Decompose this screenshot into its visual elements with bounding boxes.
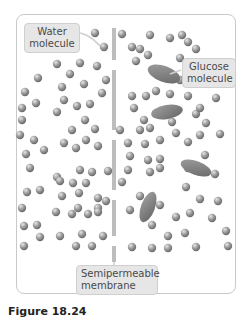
water-molecule — [60, 96, 68, 104]
water-molecule — [81, 116, 89, 124]
water-molecule — [18, 116, 26, 124]
water-molecule — [118, 30, 126, 38]
water-molecule — [124, 139, 132, 147]
water-molecule — [118, 178, 126, 186]
water-molecule — [141, 140, 149, 148]
water-molecule — [166, 90, 174, 98]
semipermeable-membrane-label: Semipermeable membrane — [76, 265, 158, 295]
water-molecule — [201, 151, 209, 159]
water-molecule — [26, 164, 34, 172]
water-molecule — [58, 83, 66, 91]
water-molecule — [178, 31, 186, 39]
water-molecule — [164, 232, 172, 240]
glucose-molecule — [179, 156, 214, 180]
water-molecule — [132, 57, 140, 65]
membrane-segment — [112, 70, 116, 130]
water-molecule — [99, 232, 107, 240]
water-molecule — [156, 136, 164, 144]
water-molecule — [148, 244, 156, 252]
water-label-line2: molecule — [29, 38, 75, 50]
water-molecule — [166, 34, 174, 42]
water-molecule — [146, 31, 154, 39]
water-molecule — [196, 131, 204, 139]
water-molecule — [93, 62, 101, 70]
water-molecule — [58, 192, 66, 200]
water-molecule — [181, 229, 189, 237]
water-molecule — [76, 59, 84, 67]
water-molecule — [128, 243, 136, 251]
water-molecule — [32, 99, 40, 107]
water-molecule — [36, 186, 44, 194]
water-molecule — [20, 242, 28, 250]
water-molecule — [60, 139, 68, 147]
water-molecule — [53, 108, 61, 116]
water-molecule — [156, 164, 164, 172]
water-molecule — [88, 168, 96, 176]
water-label-line1: Water — [29, 26, 75, 38]
water-molecule — [53, 60, 61, 68]
water-molecule — [76, 166, 84, 174]
water-molecule — [102, 197, 110, 205]
water-molecule — [224, 242, 232, 250]
water-molecule — [36, 233, 44, 241]
water-molecule — [216, 130, 224, 138]
membrane-label-line1: Semipermeable — [81, 268, 153, 280]
water-molecule — [82, 179, 90, 187]
water-molecule — [211, 170, 219, 178]
semipermeable-membrane — [112, 28, 116, 262]
water-molecule — [69, 179, 77, 187]
water-molecule — [56, 232, 64, 240]
water-molecule — [68, 126, 76, 134]
water-molecules-left — [16, 29, 112, 250]
water-molecule — [126, 206, 134, 214]
water-molecule — [98, 89, 106, 97]
water-molecule — [66, 70, 74, 78]
water-molecule — [68, 210, 76, 218]
water-molecule — [94, 208, 102, 216]
water-molecule — [146, 124, 154, 132]
water-molecule — [212, 94, 220, 102]
water-molecule — [186, 209, 194, 217]
water-molecule — [184, 38, 192, 46]
glucose-label-line2: molecule — [187, 73, 231, 85]
water-molecule — [102, 76, 110, 84]
water-molecule — [124, 166, 132, 174]
water-molecule — [208, 214, 216, 222]
water-molecule — [94, 142, 102, 150]
water-molecule — [148, 221, 156, 229]
water-molecule — [91, 125, 99, 133]
water-molecule — [184, 92, 192, 100]
membrane-segment — [112, 200, 116, 236]
water-molecule — [126, 152, 134, 160]
water-molecule — [164, 244, 172, 252]
water-molecule — [214, 197, 222, 205]
water-molecule — [52, 208, 60, 216]
water-molecule — [40, 146, 48, 154]
water-molecule — [128, 92, 136, 100]
water-molecule — [142, 92, 150, 100]
water-molecule — [172, 129, 180, 137]
water-molecule — [56, 177, 64, 185]
water-molecule — [22, 150, 30, 158]
water-molecule — [144, 51, 152, 59]
water-molecule — [18, 104, 26, 112]
water-molecule — [192, 45, 200, 53]
membrane-segment — [112, 246, 116, 262]
membrane-label-line2: membrane — [81, 280, 153, 292]
water-molecule — [75, 189, 83, 197]
water-molecule — [146, 168, 154, 176]
water-molecule — [23, 188, 31, 196]
water-molecule — [33, 221, 41, 229]
water-molecule — [100, 43, 108, 51]
water-molecule — [88, 242, 96, 250]
membrane-segment — [112, 140, 116, 190]
water-molecule — [144, 156, 152, 164]
water-molecule — [72, 144, 80, 152]
figure-caption: Figure 18.24 — [8, 305, 87, 318]
water-molecule — [82, 136, 90, 144]
glucose-molecule — [150, 102, 184, 121]
water-molecule — [86, 100, 94, 108]
water-molecule — [196, 195, 204, 203]
glucose-molecule-label: Glucose molecule — [182, 58, 236, 88]
water-molecule — [182, 183, 190, 191]
